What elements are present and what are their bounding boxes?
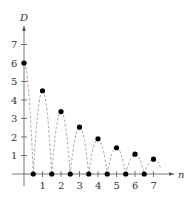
peak-point: [21, 60, 26, 65]
x-axis-arrow-icon: [169, 172, 175, 176]
ground-point: [49, 171, 54, 176]
x-tick-label: 3: [77, 180, 83, 191]
bounce-chart: 12345671234567 D n: [0, 0, 189, 202]
ground-point: [123, 171, 128, 176]
rising-arc: [33, 91, 42, 174]
ground-point: [142, 171, 147, 176]
axes: [12, 25, 175, 186]
x-tick-label: 5: [114, 180, 120, 191]
peak-point: [151, 157, 156, 162]
peak-point: [40, 88, 45, 93]
falling-arc: [135, 154, 144, 174]
peak-point: [58, 109, 63, 114]
rising-arc: [52, 112, 61, 174]
falling-arc: [43, 91, 52, 174]
data-points: [21, 60, 156, 176]
x-tick-label: 2: [58, 180, 64, 191]
ground-point: [105, 171, 110, 176]
peak-point: [132, 152, 137, 157]
rising-arc: [89, 139, 98, 174]
y-tick-label: 1: [11, 150, 17, 161]
falling-arc: [80, 127, 89, 174]
rising-arc: [126, 154, 135, 174]
peak-point: [77, 125, 82, 130]
y-tick-label: 7: [11, 39, 17, 50]
x-tick-label: 1: [40, 180, 46, 191]
dashed-arcs: [24, 63, 161, 174]
rising-arc: [144, 159, 153, 174]
y-tick-label: 2: [11, 132, 17, 143]
y-tick-label: 3: [11, 113, 17, 124]
ground-point: [31, 171, 36, 176]
peak-point: [114, 145, 119, 150]
rising-arc: [107, 148, 116, 174]
x-tick-label: 4: [95, 180, 101, 191]
ticks: 12345671234567: [11, 39, 157, 191]
ground-point: [68, 171, 73, 176]
falling-arc: [98, 139, 107, 174]
x-tick-label: 7: [151, 180, 157, 191]
peak-point: [95, 136, 100, 141]
ground-point: [86, 171, 91, 176]
rising-arc: [70, 127, 79, 174]
y-tick-label: 4: [11, 95, 17, 106]
y-axis-label: D: [19, 12, 28, 23]
falling-arc: [117, 148, 126, 174]
y-tick-label: 5: [11, 76, 17, 87]
y-axis-arrow-icon: [22, 25, 26, 31]
x-axis-label: n: [178, 169, 184, 180]
y-tick-label: 6: [11, 58, 17, 69]
x-tick-label: 6: [132, 180, 138, 191]
falling-arc: [61, 112, 70, 174]
